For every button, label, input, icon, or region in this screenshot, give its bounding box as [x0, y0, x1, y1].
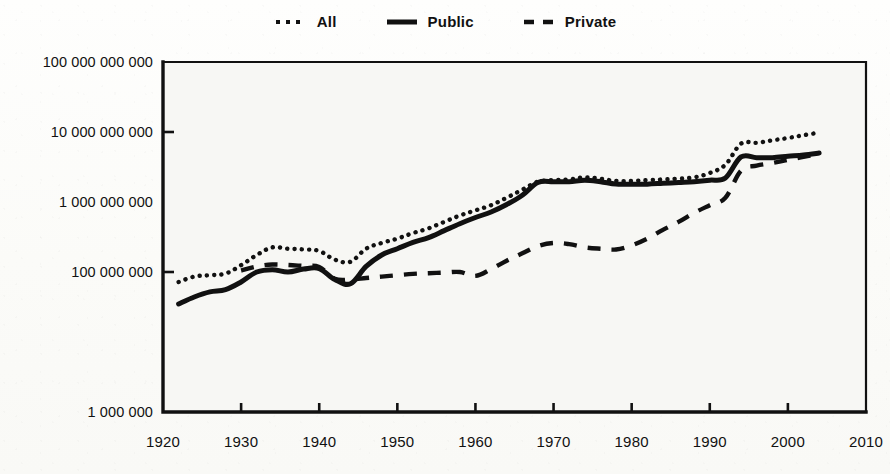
y-axis-label-1e10: 10 000 000 000 — [0, 125, 153, 140]
plot-background — [163, 62, 866, 412]
x-axis-label-1930: 1930 — [201, 434, 281, 449]
y-axis-label-1e6: 1 000 000 — [0, 405, 153, 420]
x-axis-label-1980: 1980 — [592, 434, 672, 449]
y-axis-label-1e11: 100 000 000 000 — [0, 55, 153, 70]
x-axis-label-1960: 1960 — [435, 434, 515, 449]
chart-plot-area: 100 000 000 000 10 000 000 000 1 000 000… — [0, 0, 890, 474]
chart-canvas — [0, 0, 890, 474]
x-axis-label-1990: 1990 — [670, 434, 750, 449]
x-axis-label-1950: 1950 — [357, 434, 437, 449]
x-axis-label-2010: 2010 — [826, 434, 890, 449]
chart-page: All Public Private — [0, 0, 890, 474]
x-axis-label-1970: 1970 — [514, 434, 594, 449]
y-axis-label-1e9: 1 000 000 000 — [0, 195, 153, 210]
x-axis-label-1920: 1920 — [123, 434, 203, 449]
x-axis-label-2000: 2000 — [748, 434, 828, 449]
x-axis-label-1940: 1940 — [279, 434, 359, 449]
y-axis-label-1e8: 100 000 000 — [0, 265, 153, 280]
